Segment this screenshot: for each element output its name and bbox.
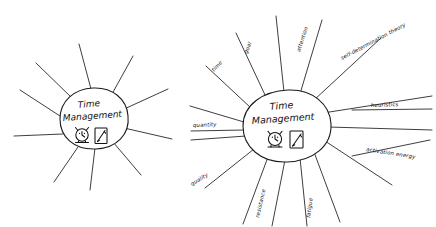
ray-label-quantity: quantity — [193, 121, 218, 129]
ray-label-fatigue: fatigue — [305, 197, 315, 218]
ray-label-attention: attention — [295, 25, 309, 52]
ray-label-self-determination-theory: self-determination theory — [340, 21, 408, 62]
right-sun-diagram: Time Management time goal attention self… — [189, 16, 432, 226]
ray-label-time: time — [210, 59, 223, 73]
ray-label-quality: quality — [189, 171, 210, 188]
diagram-canvas: Time Management — [0, 0, 436, 227]
left-center-title-line1: Time — [77, 98, 101, 110]
ray-label-resistance: resistance — [254, 188, 267, 218]
sun-diagrams-svg: Time Management — [0, 0, 436, 227]
left-sun-diagram: Time Management — [14, 44, 172, 190]
ray-label-goal: goal — [242, 41, 253, 55]
right-center-title-line1: Time — [269, 99, 294, 112]
ray-label-heuristics: heuristics — [371, 101, 399, 108]
